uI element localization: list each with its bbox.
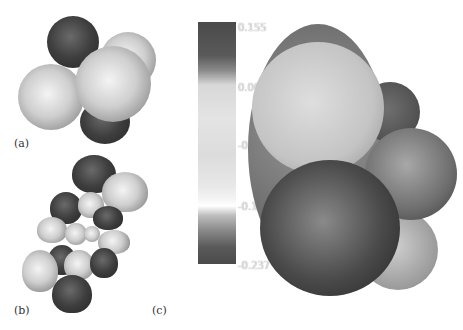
- orbital-lobe-light: [37, 217, 67, 243]
- potential-surface: [240, 20, 463, 330]
- panel-b-label: (b): [14, 304, 30, 317]
- light-sphere-front: [75, 46, 151, 122]
- colorbar: [198, 22, 236, 264]
- surface-sphere-dark: [260, 160, 400, 296]
- panel-c-label: (c): [152, 304, 167, 317]
- panel-b: (b): [0, 150, 190, 330]
- panel-a: (a): [0, 0, 190, 150]
- orbital-lobe-dark: [93, 206, 123, 230]
- orbital-lobe-dark: [90, 248, 118, 278]
- surface-sphere-light: [252, 42, 384, 174]
- light-sphere-left: [18, 64, 84, 130]
- orbital-lobe-dark: [52, 275, 92, 313]
- panel-a-label: (a): [14, 137, 29, 150]
